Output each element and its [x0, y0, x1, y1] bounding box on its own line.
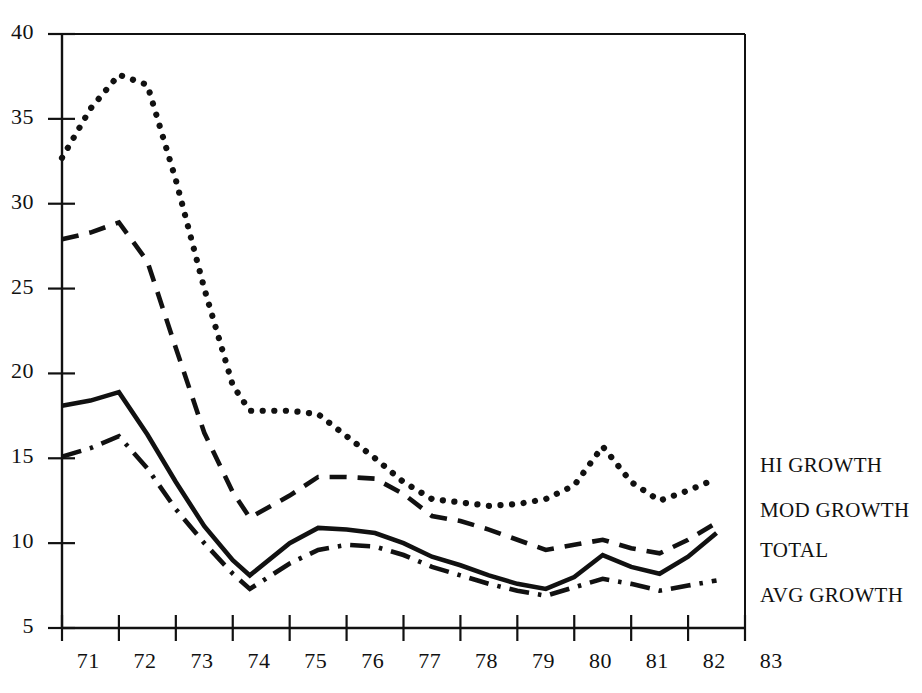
series-line-hi-growth — [62, 75, 717, 506]
x-tick-label-79: 79 — [518, 648, 570, 674]
y-tick-label-30: 30 — [0, 189, 34, 215]
x-tick-label-81: 81 — [631, 648, 683, 674]
legend-label-mod-growth: MOD GROWTH — [760, 498, 909, 523]
legend-label-total: TOTAL — [760, 538, 828, 563]
x-tick-label-83: 83 — [745, 648, 797, 674]
x-tick-label-74: 74 — [233, 648, 285, 674]
x-tick-label-75: 75 — [290, 648, 342, 674]
x-tick-label-73: 73 — [176, 648, 228, 674]
y-tick-label-35: 35 — [0, 104, 34, 130]
x-tick-label-72: 72 — [119, 648, 171, 674]
series-group — [62, 75, 717, 596]
x-tick-label-78: 78 — [461, 648, 513, 674]
axis-group — [48, 34, 745, 641]
chart-figure: 510152025303540 717273747576777879808182… — [0, 0, 922, 693]
legend-label-hi-growth: HI GROWTH — [760, 453, 882, 478]
y-tick-label-25: 25 — [0, 274, 34, 300]
x-tick-label-76: 76 — [347, 648, 399, 674]
y-tick-label-20: 20 — [0, 358, 34, 384]
y-tick-label-10: 10 — [0, 528, 34, 554]
x-tick-label-80: 80 — [574, 648, 626, 674]
y-tick-label-40: 40 — [0, 19, 34, 45]
series-line-mod-growth — [62, 222, 717, 553]
x-tick-label-77: 77 — [404, 648, 456, 674]
x-tick-label-71: 71 — [62, 648, 114, 674]
y-tick-label-15: 15 — [0, 443, 34, 469]
legend-label-avg-growth: AVG GROWTH — [760, 583, 903, 608]
x-tick-label-82: 82 — [688, 648, 740, 674]
y-tick-label-5: 5 — [0, 613, 34, 639]
